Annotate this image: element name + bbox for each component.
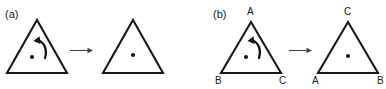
center-dot [30, 55, 34, 59]
figure-root: (a) (b) [0, 0, 386, 89]
result-triangle-outline [103, 20, 163, 73]
panel-a-graphics [0, 0, 193, 89]
result-vertex-label-bottom-left: A [312, 76, 319, 86]
transform-arrow-right-icon [289, 48, 312, 53]
result-center-dot [131, 53, 135, 57]
panel-a: (a) [0, 0, 193, 89]
result-center-dot [346, 54, 350, 58]
panel-b: (b) A B C C A B [193, 0, 386, 89]
source-triangle-outline [221, 22, 281, 73]
rotation-arrow-counterclockwise-icon [34, 36, 46, 58]
transform-arrow-right-icon [70, 48, 93, 53]
rotation-arrow-counterclockwise-icon [248, 36, 260, 58]
center-dot [244, 55, 248, 59]
result-vertex-label-bottom-right: B [377, 76, 384, 86]
result-triangle-outline [318, 22, 378, 73]
source-vertex-label-top: A [247, 7, 254, 17]
source-triangle-outline [7, 20, 67, 73]
result-vertex-label-top: C [344, 7, 351, 17]
source-vertex-label-bottom-right: C [279, 76, 286, 86]
source-vertex-label-bottom-left: B [215, 76, 222, 86]
